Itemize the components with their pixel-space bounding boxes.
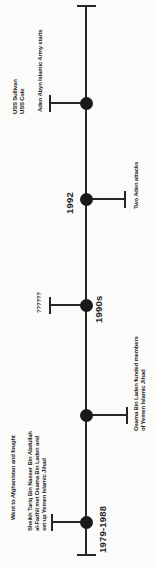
annotation-line: ?????? (36, 292, 43, 313)
timeline-axis (85, 6, 87, 556)
annotation-line: Aden Abyn Islamic Army starts (37, 30, 44, 112)
annotation-line: Sheikh Tariq Bin Nasser Bin Abdullah (27, 431, 34, 531)
annotation-aden-army: Aden Abyn Islamic Army starts (37, 30, 44, 112)
annotation-line: Osama Bin Laden funded members (133, 336, 140, 431)
connector-end-tick (49, 297, 51, 314)
year-label-1990s: 1990s (94, 296, 104, 323)
event-dot-1990s (80, 299, 93, 312)
axis-end-cap-bottom (77, 554, 96, 556)
annotation-afghanistan: Went to Afghanistan and fought (10, 435, 17, 520)
annotation-two-aden-attacks: Two Aden attacks (133, 162, 140, 209)
annotation-line: USS Sullivan (12, 79, 19, 114)
event-dot-1979-1988 (80, 516, 93, 529)
annotation-line: USS Cole (19, 79, 26, 114)
annotation-line: al-Fadhli met Osama Bin Laden and (34, 431, 41, 531)
event-dot-funding (80, 409, 93, 422)
annotation-line: Went to Afghanistan and fought (10, 435, 17, 520)
annotation-bin-laden-funding: Osama Bin Laden funded members of Yemen … (133, 336, 148, 431)
annotation-unknown: ?????? (36, 292, 43, 313)
event-dot-uss-attacks (80, 97, 93, 110)
year-label-1979-1988: 1979-1988 (98, 506, 108, 553)
axis-end-cap-top (77, 5, 96, 7)
annotation-uss-ships: USS Sullivan USS Cole (12, 79, 27, 114)
connector-end-tick (49, 95, 51, 112)
year-label-1992: 1992 (65, 192, 75, 214)
connector-end-tick (51, 514, 53, 531)
annotation-line: set up Yemen Islamic Jihad (41, 431, 48, 531)
annotation-line: of Yemen Islamic Jihad (140, 336, 147, 431)
annotation-line: Two Aden attacks (133, 162, 140, 209)
event-dot-1992 (80, 193, 93, 206)
connector-end-tick (126, 407, 128, 424)
connector-end-tick (124, 191, 126, 208)
timeline-canvas: USS Sullivan USS Cole Aden Abyn Islamic … (0, 0, 156, 568)
annotation-sheikh-tariq: Sheikh Tariq Bin Nasser Bin Abdullah al-… (27, 431, 48, 531)
